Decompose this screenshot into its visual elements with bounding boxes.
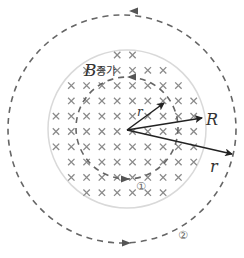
path-1-label: ① bbox=[136, 180, 146, 193]
magnetic-field-region bbox=[48, 50, 206, 208]
magnetic-induction-diagram: B 증가 r R r ① ② bbox=[0, 0, 244, 258]
path-2-label: ② bbox=[178, 229, 188, 242]
field-symbol-label: B bbox=[83, 60, 97, 80]
path-2-direction-arrow-bottom bbox=[122, 240, 131, 247]
path-2-direction-arrow-top bbox=[129, 8, 138, 15]
field-increase-label: 증가 bbox=[96, 65, 116, 78]
outer-radius-label: r bbox=[210, 157, 219, 176]
region-radius-label: R bbox=[205, 110, 218, 129]
